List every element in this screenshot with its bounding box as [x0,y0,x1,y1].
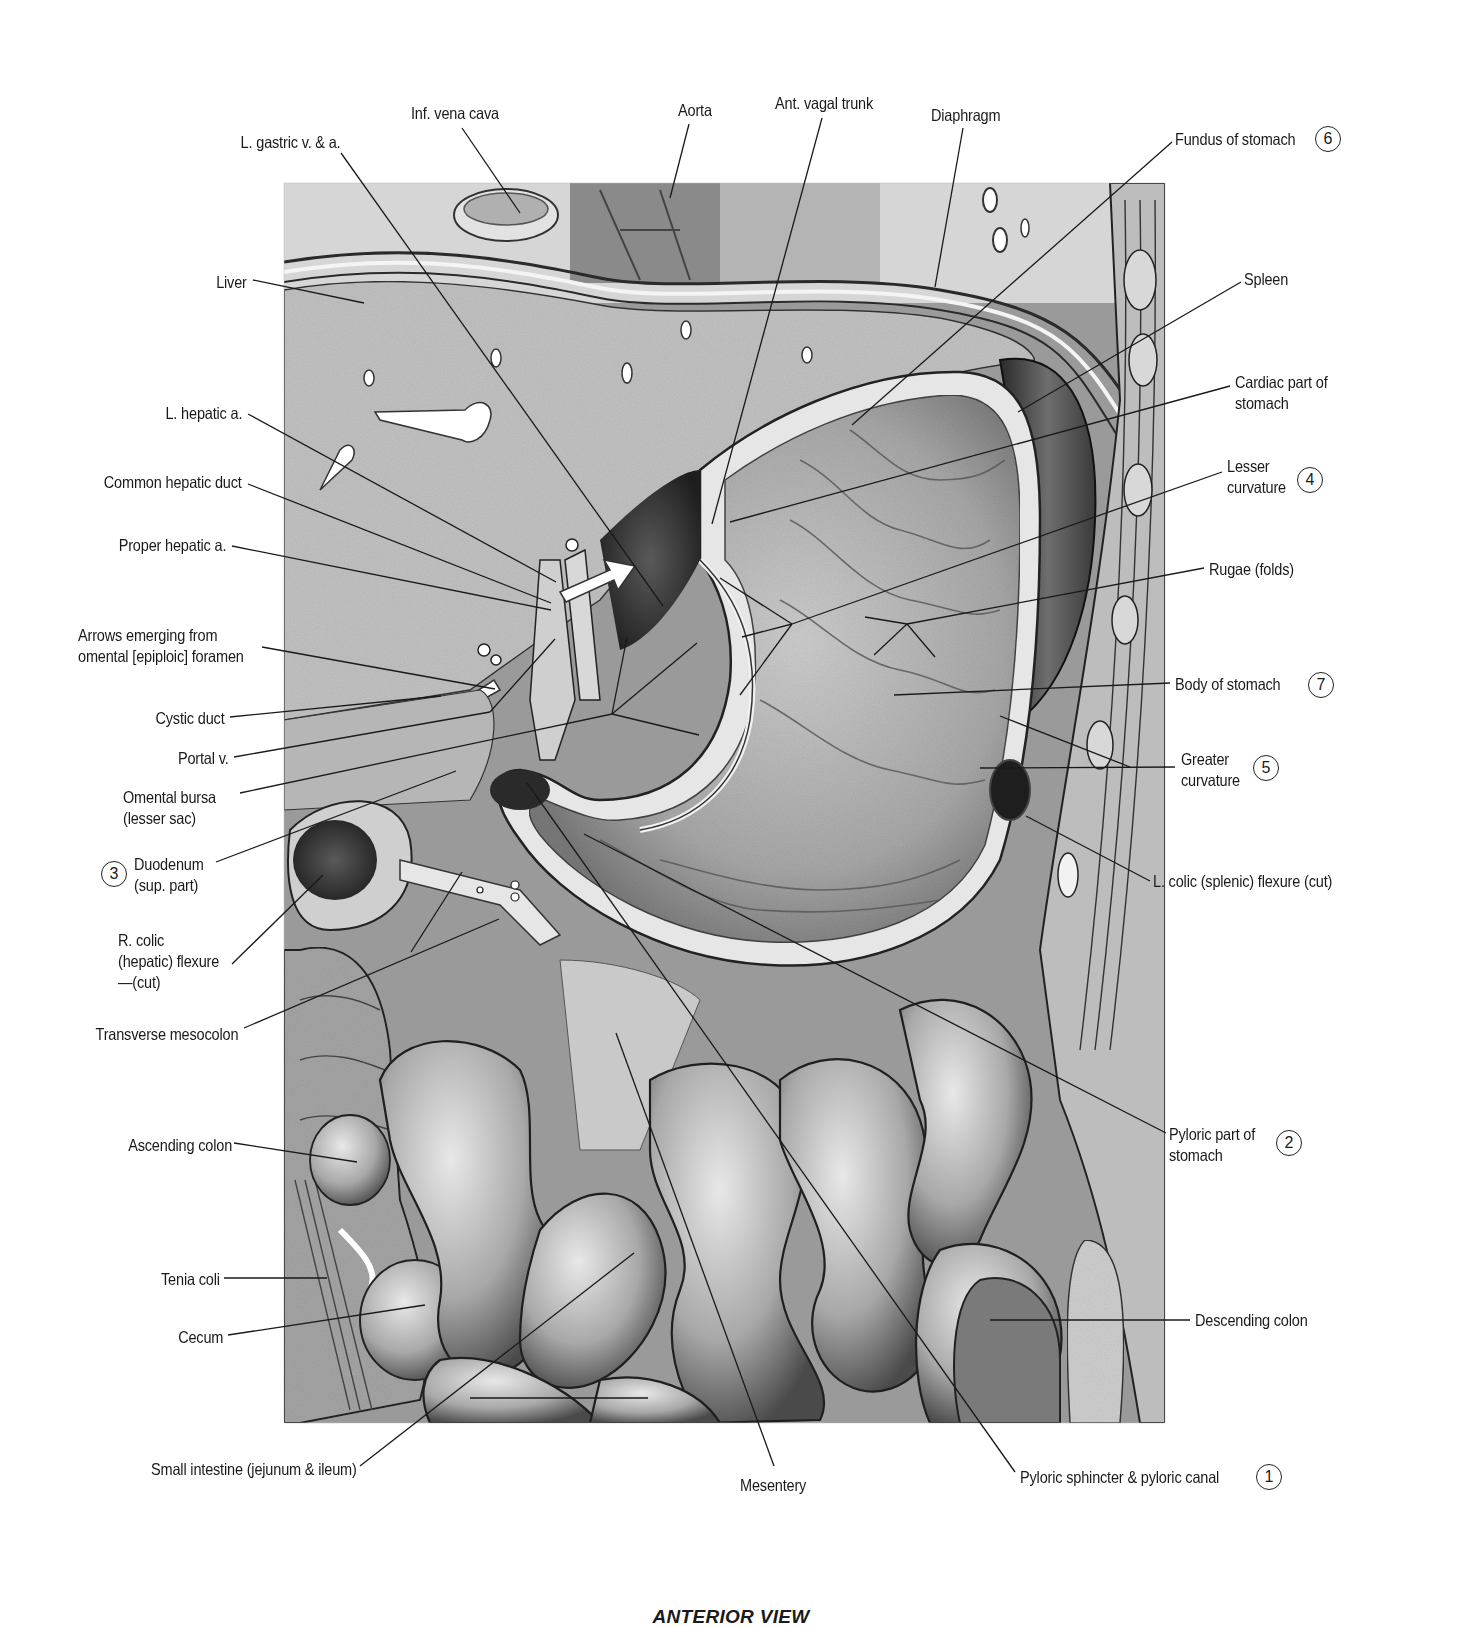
label-line-2: omental [epiploic] foramen [78,646,244,667]
label-line-1: Omental bursa [123,787,216,808]
label-ant-vagal-trunk: Ant. vagal trunk [775,93,873,114]
label-cecum: Cecum [178,1327,223,1348]
figure-caption: ANTERIOR VIEW [0,1606,1462,1627]
label-ascending-colon: Ascending colon [128,1135,232,1156]
label-greater-curvature: Greater curvature [1181,749,1240,791]
label-line-1: R. colic [118,930,219,951]
label-omental-bursa: Omental bursa (lesser sac) [123,787,216,829]
callout-number-6: 6 [1315,126,1341,152]
label-l-hepatic-a: L. hepatic a. [165,403,242,424]
label-line-1: Duodenum [134,854,204,875]
callout-number-1: 1 [1256,1464,1282,1490]
callout-number-5: 5 [1253,755,1279,781]
label-liver: Liver [216,272,247,293]
label-mesentery: Mesentery [740,1475,806,1496]
label-proper-hepatic-a: Proper hepatic a. [118,535,226,556]
label-arrows-omental: Arrows emerging from omental [epiploic] … [78,625,244,667]
label-body-of-stomach: Body of stomach [1175,674,1281,695]
label-transverse-mesocolon: Transverse mesocolon [95,1024,238,1045]
label-line-1: Greater [1181,749,1240,770]
label-pyloric-part: Pyloric part of stomach [1169,1124,1255,1166]
label-portal-v: Portal v. [177,748,228,769]
label-r-colic-flexure: R. colic (hepatic) flexure —(cut) [118,930,219,993]
label-line-2: curvature [1181,770,1240,791]
label-diaphragm: Diaphragm [931,105,1000,126]
label-line-1: Lesser [1227,456,1286,477]
label-l-gastric: L. gastric v. & a. [240,132,340,153]
label-pyloric-sphincter: Pyloric sphincter & pyloric canal [1020,1467,1219,1488]
label-line-2: (hepatic) flexure [118,951,219,972]
label-l-colic-flexure: L. colic (splenic) flexure (cut) [1153,871,1332,892]
callout-number-2: 2 [1276,1130,1302,1156]
callout-number-3: 3 [101,861,127,887]
label-line-2: stomach [1169,1145,1255,1166]
label-lesser-curvature: Lesser curvature [1227,456,1286,498]
label-cardiac-part: Cardiac part of stomach [1235,372,1328,414]
callout-number-7: 7 [1308,672,1334,698]
label-fundus: Fundus of stomach [1175,129,1296,150]
label-line-3: —(cut) [118,972,219,993]
label-descending-colon: Descending colon [1195,1310,1308,1331]
label-line-2: stomach [1235,393,1328,414]
callout-number-4: 4 [1297,467,1323,493]
label-line-1: Arrows emerging from [78,625,244,646]
label-line-1: Pyloric part of [1169,1124,1255,1145]
label-duodenum: Duodenum (sup. part) [134,854,204,896]
label-line-2: curvature [1227,477,1286,498]
label-line-1: Cardiac part of [1235,372,1328,393]
label-common-hepatic-duct: Common hepatic duct [104,472,242,493]
label-aorta: Aorta [678,100,712,121]
label-line-2: (lesser sac) [123,808,216,829]
label-small-intestine: Small intestine (jejunum & ileum) [151,1459,357,1480]
label-inf-vena-cava: Inf. vena cava [411,103,499,124]
label-line-2: (sup. part) [134,875,204,896]
label-spleen: Spleen [1244,269,1288,290]
label-cystic-duct: Cystic duct [155,708,224,729]
label-tenia-coli: Tenia coli [161,1269,220,1290]
label-rugae: Rugae (folds) [1209,559,1294,580]
